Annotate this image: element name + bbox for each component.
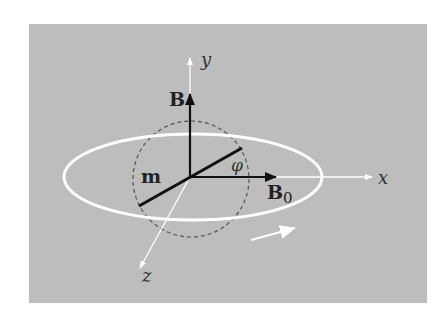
x-axis-label: x <box>378 167 388 188</box>
m-label: m <box>141 165 161 187</box>
phi-label: φ <box>231 155 243 175</box>
precession-diagram: y x z B B0 m φ <box>0 0 448 328</box>
y-axis-label: y <box>200 49 212 70</box>
z-axis-label: z <box>141 265 152 286</box>
background-panel <box>29 24 427 303</box>
B-label: B <box>169 88 185 110</box>
